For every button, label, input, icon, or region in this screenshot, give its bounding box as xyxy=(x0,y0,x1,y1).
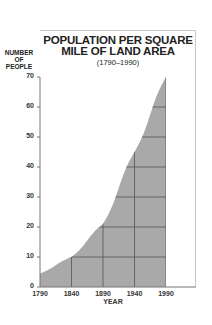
y-tick-label: 10 xyxy=(0,252,34,259)
y-tick-label: 20 xyxy=(0,222,34,229)
y-tick-label: 30 xyxy=(0,192,34,199)
x-tick-label: 1940 xyxy=(123,290,147,297)
y-tick-label: 60 xyxy=(0,102,34,109)
y-tick-label: 0 xyxy=(0,282,34,289)
x-tick-label: 1890 xyxy=(91,290,115,297)
x-tick-label: 1790 xyxy=(28,290,52,297)
x-axis-label: YEAR xyxy=(93,298,133,305)
y-tick-label: 50 xyxy=(0,132,34,139)
y-tick-label: 40 xyxy=(0,162,34,169)
y-tick-label: 70 xyxy=(0,72,34,79)
x-tick-label: 1990 xyxy=(154,290,178,297)
x-tick-label: 1840 xyxy=(60,290,84,297)
